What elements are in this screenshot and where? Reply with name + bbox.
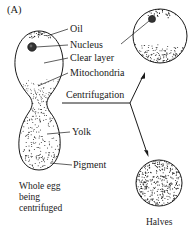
stipple-dot: [163, 63, 164, 64]
stipple-dot: [154, 59, 155, 60]
stipple-dot: [164, 167, 165, 168]
stipple-dot: [41, 112, 42, 113]
stipple-dot: [135, 61, 136, 62]
stipple-dot: [21, 103, 22, 104]
stipple-dot: [26, 90, 27, 91]
stipple-dot: [136, 168, 137, 169]
stipple-dot: [45, 95, 46, 96]
stipple-dot: [61, 145, 62, 146]
stipple-dot: [30, 101, 31, 102]
stipple-dot: [156, 170, 157, 171]
stipple-dot: [62, 90, 63, 91]
stipple-dot: [136, 51, 137, 52]
stipple-dot: [40, 130, 41, 131]
stipple-dot: [177, 181, 178, 182]
stipple-dot: [59, 85, 60, 86]
stipple-dot: [160, 194, 161, 195]
stipple-dot: [31, 170, 32, 171]
stipple-dot: [166, 190, 167, 191]
stipple-dot: [148, 172, 149, 173]
stipple-dot: [26, 156, 27, 157]
stipple-dot: [133, 52, 134, 53]
stipple-dot: [47, 148, 48, 149]
stipple-dot: [169, 193, 170, 194]
stipple-dot: [140, 184, 141, 185]
stipple-dot: [182, 48, 183, 49]
stipple-dot: [171, 204, 172, 205]
stipple-dot: [164, 60, 165, 61]
stipple-dot: [42, 156, 43, 157]
stipple-dot: [34, 89, 35, 90]
stipple-dot: [143, 60, 144, 61]
stipple-dot: [142, 54, 143, 55]
stipple-dot: [58, 95, 59, 96]
stipple-dot: [23, 164, 24, 165]
stipple-dot: [176, 206, 177, 207]
stipple-dot: [139, 200, 140, 201]
stipple-dot: [166, 196, 167, 197]
stipple-dot: [33, 167, 34, 168]
stipple-dot: [23, 107, 24, 108]
stipple-dot: [53, 166, 54, 167]
stipple-dot: [62, 99, 63, 100]
stipple-dot: [35, 142, 36, 143]
stipple-dot: [174, 201, 175, 202]
stipple-dot: [61, 136, 62, 137]
stipple-dot: [147, 50, 148, 51]
stipple-dot: [39, 136, 40, 137]
stipple-dot: [137, 53, 138, 54]
stipple-dot: [18, 159, 19, 160]
stipple-dot: [28, 155, 29, 156]
stipple-dot: [166, 167, 167, 168]
stipple-dot: [41, 142, 42, 143]
stipple-dot: [151, 194, 152, 195]
stipple-dot: [50, 36, 51, 37]
stipple-dot: [169, 14, 170, 15]
stipple-dot: [137, 55, 138, 56]
stipple-dot: [175, 195, 176, 196]
arrow-down-head-icon: [144, 150, 149, 157]
stipple-dot: [176, 173, 177, 174]
stipple-dot: [39, 34, 40, 35]
stipple-dot: [32, 128, 33, 129]
stipple-dot: [171, 50, 172, 51]
stipple-dot: [143, 184, 144, 185]
stipple-dot: [172, 204, 173, 205]
stipple-dot: [172, 56, 173, 57]
stipple-dot: [148, 201, 149, 202]
stipple-dot: [140, 63, 141, 64]
stipple-dot: [61, 155, 62, 156]
stipple-dot: [162, 176, 163, 177]
stipple-dot: [56, 119, 57, 120]
stipple-dot: [53, 104, 54, 105]
stipple-dot: [35, 170, 36, 171]
nucleolus: [30, 45, 33, 48]
stipple-dot: [38, 159, 39, 160]
stipple-dot: [29, 170, 30, 171]
stipple-dot: [160, 170, 161, 171]
stipple-dot: [144, 12, 145, 13]
stipple-dot: [138, 176, 139, 177]
stipple-dot: [152, 199, 153, 200]
stipple-dot: [186, 54, 187, 55]
stipple-dot: [43, 120, 44, 121]
stipple-dot: [53, 125, 54, 126]
stipple-dot: [54, 154, 55, 155]
stipple-dot: [178, 202, 179, 203]
stipple-dot: [153, 63, 154, 64]
stipple-dot: [167, 166, 168, 167]
stipple-dot: [59, 156, 60, 157]
stipple-dot: [162, 163, 163, 164]
stipple-dot: [15, 90, 16, 91]
stipple-dot: [177, 10, 178, 11]
stipple-dot: [184, 60, 185, 61]
stipple-dot: [55, 99, 56, 100]
stipple-dot: [147, 57, 148, 58]
stipple-dot: [33, 116, 34, 117]
stipple-dot: [48, 152, 49, 153]
stipple-dot: [39, 119, 40, 120]
stipple-dot: [171, 177, 172, 178]
stipple-dot: [54, 115, 55, 116]
stipple-dot: [63, 94, 64, 95]
stipple-dot: [165, 50, 166, 51]
